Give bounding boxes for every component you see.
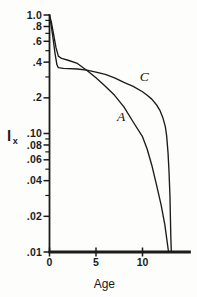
y-tick-label: .2 xyxy=(33,91,42,103)
y-tick-label: .02 xyxy=(27,210,42,222)
curve-label-C: C xyxy=(140,69,150,84)
y-tick-label: .10 xyxy=(27,127,42,139)
y-tick-label: .8 xyxy=(33,20,42,32)
x-tick-label: 10 xyxy=(137,256,149,268)
y-tick-label: .04 xyxy=(27,174,42,186)
x-axis-title: Age xyxy=(94,277,116,291)
y-tick-label: 1.0 xyxy=(27,9,42,21)
x-tick-label: 5 xyxy=(93,256,99,268)
curve-C xyxy=(50,15,172,252)
y-tick-label: .08 xyxy=(27,139,42,151)
curve-label-A: A xyxy=(116,109,126,124)
curve-A xyxy=(50,15,169,252)
y-tick-label: .01 xyxy=(27,246,42,258)
y-tick-label: .6 xyxy=(33,35,42,47)
survivorship-figure: 1.0.8.6.4.2.10.08.06.04.02.010510AgelxAC xyxy=(0,0,197,297)
survivorship-chart: 1.0.8.6.4.2.10.08.06.04.02.010510AgelxAC xyxy=(0,0,197,297)
x-tick-label: 0 xyxy=(47,256,53,268)
y-tick-label: .4 xyxy=(33,56,42,68)
y-axis-title: lx xyxy=(7,127,18,146)
y-tick-label: .06 xyxy=(27,153,42,165)
